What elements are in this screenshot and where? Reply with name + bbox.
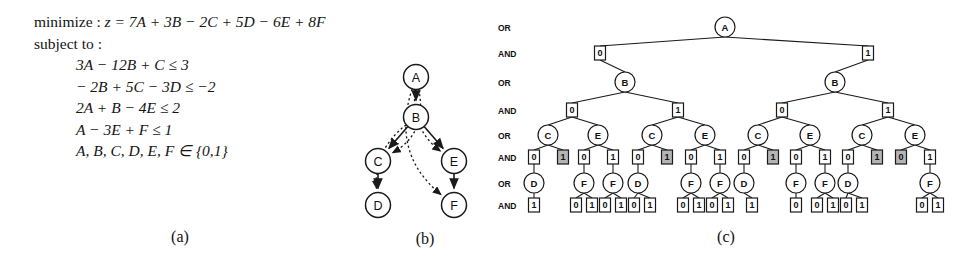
figure-root: minimize : z = 7A + 3B − 2C + 5D − 6E + … (0, 0, 976, 260)
tree-row-label-and-5: AND (498, 153, 516, 163)
tree-edge-or4-leaf-14 (825, 193, 833, 198)
tree-or-node-e-7: E (905, 125, 925, 145)
tree-or-node-f-l4-5: F (710, 173, 730, 193)
tree-edge-and2-3-0 (862, 117, 888, 125)
tree-value-label: 1 (531, 200, 536, 210)
tree-or-node-d-l4-9: D (838, 173, 858, 193)
tree-value-label: 0 (814, 200, 819, 210)
tree-edge-b0-0 (572, 92, 625, 103)
tree-node-label: F (688, 178, 694, 189)
tree-and-node-l3-6: 0 (686, 150, 697, 164)
tree-row-label-and-1: AND (498, 49, 516, 59)
tree-and-node-leaf-4: 1 (616, 198, 627, 212)
tree-and-node-l2-2: 0 (777, 103, 788, 117)
tree-and-node-l3-11: 1 (820, 150, 831, 164)
tree-edge-and2-2-0 (758, 117, 782, 125)
tree-value-label: 1 (770, 152, 775, 162)
tree-row-label-or-0: OR (498, 23, 511, 33)
tree-edge-or3-1-0 (584, 145, 598, 150)
tree-and-node-leaf-1: 0 (571, 198, 582, 212)
tree-edge-root-1 (725, 37, 868, 46)
panel-c-search-tree: ORANDORANDORANDORAND A01BB0101CECECECE01… (0, 0, 976, 260)
tree-value-label: 1 (610, 152, 615, 162)
tree-or-node-d-l4-6: D (734, 173, 754, 193)
tree-and-node-leaf-7: 0 (678, 198, 689, 212)
tree-and-node-leaf-14: 1 (828, 198, 839, 212)
tree-edge-and1-b1 (835, 60, 868, 72)
tree-node-label: A (722, 22, 729, 33)
tree-and-node-leaf-0: 1 (529, 198, 540, 212)
tree-edge-or3-2-1 (652, 145, 667, 150)
tree-and-node-l3-15: 1 (925, 150, 936, 164)
tree-or-node-f-l4-10: F (920, 173, 940, 193)
tree-edge-or3-7-1 (915, 145, 930, 150)
tree-value-label: 0 (688, 152, 693, 162)
tree-edge-or4-leaf-18 (930, 193, 938, 198)
tree-and-node-l3-10: 0 (791, 150, 802, 164)
tree-node-label: F (581, 178, 587, 189)
tree-and-node-leaf-12: 0 (791, 198, 802, 212)
tree-edges (534, 37, 938, 198)
tree-or-node-f-l4-8: F (815, 173, 835, 193)
tree-value-label: 0 (531, 152, 536, 162)
tree-value-label: 1 (935, 200, 940, 210)
tree-edge-and1-b0 (600, 60, 625, 72)
tree-and-node-leaf-11: 1 (747, 198, 758, 212)
tree-edge-or4-leaf-9 (712, 193, 720, 198)
tree-and-node-l3-7: 1 (715, 150, 726, 164)
tree-edge-and2-3-1 (888, 117, 915, 125)
tree-edge-or4-leaf-13 (817, 193, 825, 198)
tree-value-label: 0 (845, 152, 850, 162)
tree-and-node-l3-13: 1 (872, 150, 883, 164)
tree-and-node-l3-14: 0 (896, 150, 907, 164)
tree-value-label: 0 (581, 152, 586, 162)
tree-node-label: E (807, 130, 813, 141)
tree-value-label: 0 (569, 105, 574, 115)
tree-value-label: 0 (843, 200, 848, 210)
tree-and-node-leaf-15: 0 (841, 198, 852, 212)
tree-value-label: 1 (874, 152, 879, 162)
tree-and-node-l3-5: 1 (662, 150, 673, 164)
tree-edge-or3-4-0 (744, 145, 758, 150)
tree-value-label: 0 (709, 200, 714, 210)
tree-value-label: 1 (618, 200, 623, 210)
tree-row-label-and-3: AND (498, 106, 516, 116)
tree-value-label: 1 (749, 200, 754, 210)
tree-edge-or4-leaf-3 (605, 193, 613, 198)
tree-edge-or4-leaf-4 (613, 193, 621, 198)
tree-or-node-c-2: C (642, 125, 662, 145)
tree-edge-or4-leaf-6 (638, 193, 650, 198)
tree-edge-or4-leaf-1 (576, 193, 584, 198)
tree-and-node-leaf-18: 1 (933, 198, 944, 212)
tree-and-node-leaf-6: 1 (645, 198, 656, 212)
tree-node-label: F (793, 178, 799, 189)
tree-value-label: 0 (635, 152, 640, 162)
tree-edge-and2-1-1 (678, 117, 705, 125)
tree-and-node-l3-2: 0 (579, 150, 590, 164)
tree-node-label: F (927, 178, 933, 189)
tree-or-node-f-l4-1: F (574, 173, 594, 193)
tree-edge-or4-leaf-17 (922, 193, 930, 198)
tree-or-node-f-l4-2: F (603, 173, 623, 193)
tree-edge-or3-0-1 (548, 145, 563, 150)
tree-row-labels: ORANDORANDORANDORAND (498, 23, 516, 211)
tree-and-node-l3-12: 0 (843, 150, 854, 164)
tree-value-label: 1 (822, 152, 827, 162)
tree-edge-b0-1 (625, 92, 678, 103)
tree-value-label: 1 (830, 200, 835, 210)
tree-or-node-c-4: C (748, 125, 768, 145)
tree-edge-and2-2-1 (782, 117, 810, 125)
tree-or-node-e-5: E (800, 125, 820, 145)
tree-value-label: 1 (725, 200, 730, 210)
tree-node-label: C (755, 130, 762, 141)
tree-and-node-l3-8: 0 (739, 150, 750, 164)
tree-edge-or3-6-0 (848, 145, 862, 150)
tree-node-label: C (545, 130, 552, 141)
tree-edge-or3-0-0 (534, 145, 548, 150)
tree-value-label: 1 (664, 152, 669, 162)
tree-edge-or4-leaf-15 (846, 193, 848, 198)
tree-and-node-l2-1: 1 (673, 103, 684, 117)
tree-edge-b1-1 (835, 92, 888, 103)
tree-node-label: B (832, 77, 839, 88)
tree-edge-or4-leaf-5 (634, 193, 638, 198)
